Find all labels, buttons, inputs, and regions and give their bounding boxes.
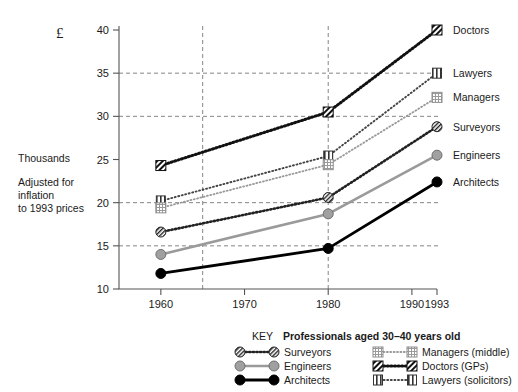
data-point-marker [269,361,279,371]
data-point-marker [235,375,245,385]
y-tick-label: 15 [97,240,109,252]
series-end-labels: DoctorsLawyersManagersSurveyorsEngineers… [453,24,500,188]
data-point-marker [323,243,333,253]
data-point-marker [373,347,383,357]
legend-label: Lawyers (solicitors) [422,374,512,386]
data-point-marker [374,375,383,385]
legend-label: Engineers [284,360,331,372]
side-note-inflation: inflation [18,189,54,201]
y-tick-label: 25 [97,154,109,166]
data-point-marker [432,25,442,35]
data-point-marker [156,249,166,259]
series-end-label-surveyors: Surveyors [453,121,500,133]
data-point-marker [269,347,279,357]
data-point-marker [156,227,166,237]
series-end-label-lawyers: Lawyers [453,67,492,79]
x-tick-label: 1960 [149,298,173,310]
y-axis-tick-labels: 10152025303540 [97,24,109,295]
data-point-marker [235,361,245,371]
data-point-marker [156,161,166,171]
legend-label: Managers (middle) [422,346,510,358]
legend-item-managers[interactable]: Managers (middle) [373,346,510,358]
data-point-marker [432,92,442,102]
data-point-marker [323,209,333,219]
data-point-marker [323,107,333,117]
data-point-marker [407,347,417,357]
legend-item-architects[interactable]: Architects [235,374,330,386]
side-note-adjusted: Adjusted for [18,176,75,188]
x-axis-tick-labels: 19601970198019901993 [149,298,450,310]
x-tick-label: 1980 [316,298,340,310]
series-end-label-managers: Managers [453,91,500,103]
data-point-marker [432,150,442,160]
legend-item-doctors[interactable]: Doctors (GPs) [373,360,489,372]
key-title: Professionals aged 30–40 years old [283,330,460,342]
data-point-marker [432,122,442,132]
data-point-marker [323,160,333,170]
legend-item-surveyors[interactable]: Surveyors [235,346,331,358]
legend-item-engineers[interactable]: Engineers [235,360,331,372]
series-end-label-engineers: Engineers [453,149,500,161]
x-tick-label: 1970 [232,298,256,310]
data-point-marker [373,361,383,371]
data-point-marker [269,375,279,385]
data-point-marker [235,347,245,357]
y-tick-label: 40 [97,24,109,36]
y-tick-label: 10 [97,283,109,295]
data-point-marker [156,203,166,213]
data-point-marker [156,268,166,278]
chart-figure: 10152025303540 19601970198019901993 Doct… [0,0,518,392]
x-tick-label: 1993 [425,298,449,310]
line-chart-svg: 10152025303540 19601970198019901993 Doct… [0,0,518,392]
data-point-marker [408,375,417,385]
side-note-thousands: Thousands [18,152,70,164]
y-tick-label: 35 [97,67,109,79]
key-word: KEY [252,330,273,342]
currency-symbol: £ [56,25,64,41]
series-end-label-doctors: Doctors [453,24,489,36]
data-point-marker [407,361,417,371]
legend: SurveyorsEngineersArchitectsManagers (mi… [235,346,512,386]
series-end-label-architects: Architects [453,176,499,188]
data-point-marker [433,68,442,78]
y-tick-label: 20 [97,197,109,209]
legend-label: Architects [284,374,330,386]
x-tick-label: 1990 [400,298,424,310]
data-point-marker [323,192,333,202]
y-tick-label: 30 [97,110,109,122]
legend-item-lawyers[interactable]: Lawyers (solicitors) [374,374,512,386]
data-point-marker [432,177,442,187]
legend-label: Doctors (GPs) [422,360,489,372]
side-note-prices: to 1993 prices [18,202,84,214]
legend-label: Surveyors [284,346,331,358]
